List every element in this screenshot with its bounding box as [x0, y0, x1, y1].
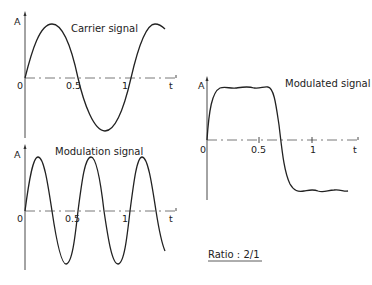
- modulated-x-label: t: [353, 144, 357, 155]
- modulated-curve: [207, 87, 348, 192]
- ratio-annotation: Ratio : 2/1: [208, 249, 262, 261]
- carrier-curve: [25, 24, 165, 131]
- carrier-tick-1: 1: [122, 80, 128, 91]
- modulated-plot: A 0 0.5 1 t Modulated signal: [198, 76, 371, 200]
- modulation-curve: [25, 157, 165, 264]
- modulated-tick-0: 0: [200, 144, 206, 155]
- modulated-tick-1: 1: [310, 144, 316, 155]
- carrier-title: Carrier signal: [71, 23, 138, 34]
- carrier-tick-0: 0: [17, 80, 23, 91]
- modulated-tick-0-5: 0.5: [251, 144, 266, 155]
- modulation-y-label: A: [14, 149, 21, 160]
- carrier-plot: A 0 0.5 1 t Carrier signal: [14, 11, 176, 138]
- carrier-y-label: A: [14, 16, 21, 27]
- modulation-plot: A 0 0.5 1 t Modulation signal: [14, 144, 176, 270]
- modulated-y-label: A: [198, 80, 205, 91]
- modulation-x-label: t: [169, 213, 173, 224]
- carrier-tick-0-5: 0.5: [66, 80, 81, 91]
- carrier-y-arrow-icon: [24, 11, 27, 16]
- modulation-tick-0: 0: [17, 213, 23, 224]
- carrier-x-label: t: [169, 80, 173, 91]
- modulation-tick-0-5: 0.5: [65, 213, 80, 224]
- modulation-tick-1: 1: [122, 213, 128, 224]
- modulation-y-arrow-icon: [24, 144, 27, 149]
- signal-diagram: A 0 0.5 1 t Carrier signal A 0 0.5 1 t M…: [0, 0, 372, 285]
- modulated-title: Modulated signal: [285, 78, 371, 89]
- ratio-label: Ratio : 2/1: [208, 249, 260, 260]
- modulated-y-arrow-icon: [206, 76, 209, 81]
- modulation-title: Modulation signal: [55, 146, 143, 157]
